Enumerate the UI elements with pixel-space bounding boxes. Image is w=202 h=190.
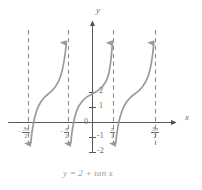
x-tick-fraction-2: π 2 bbox=[64, 126, 69, 139]
plot-canvas bbox=[0, 0, 202, 190]
x-tick-minus-sign-2: − bbox=[60, 126, 63, 134]
x-tick-fraction-3: π 2 bbox=[110, 126, 115, 139]
x-tick-minus-sign-1: − bbox=[18, 126, 21, 134]
y-tick-label-neg-2: -2 bbox=[97, 147, 104, 155]
x-tick-denominator-1: 2 bbox=[22, 133, 30, 139]
y-tick-label-2: 2 bbox=[99, 87, 103, 95]
origin-label: 0 bbox=[84, 118, 88, 126]
x-tick-label-pi-over-2: π 2 bbox=[110, 126, 115, 139]
tangent-branch-3 bbox=[116, 43, 154, 144]
x-tick-label-neg-pi-over-2: − π 2 bbox=[60, 126, 69, 139]
x-axis-label: x bbox=[185, 113, 189, 122]
tangent-function-figure: y x 0 2 1 -1 -2 − 3π 2 − π 2 π 2 3π 2 y … bbox=[0, 0, 202, 190]
y-tick-label-1: 1 bbox=[99, 102, 103, 110]
x-tick-denominator-2: 2 bbox=[64, 133, 69, 139]
equation-caption: y = 2 + tan x bbox=[63, 168, 113, 178]
x-tick-label-3pi-over-2: 3π 2 bbox=[151, 126, 159, 139]
x-tick-denominator-3: 2 bbox=[110, 133, 115, 139]
y-tick-label-neg-1: -1 bbox=[97, 132, 104, 140]
tangent-branch-2 bbox=[71, 43, 113, 144]
x-tick-fraction-1: 3π 2 bbox=[22, 126, 30, 139]
x-tick-denominator-4: 2 bbox=[151, 133, 159, 139]
x-tick-label-neg-3pi-over-2: − 3π 2 bbox=[18, 126, 30, 139]
x-tick-fraction-4: 3π 2 bbox=[151, 126, 159, 139]
x-tick-numerator-2: π bbox=[64, 126, 69, 133]
x-tick-numerator-1: 3π bbox=[22, 126, 30, 133]
x-tick-numerator-4: 3π bbox=[151, 126, 159, 133]
x-tick-numerator-3: π bbox=[110, 126, 115, 133]
y-axis-label: y bbox=[96, 6, 100, 15]
